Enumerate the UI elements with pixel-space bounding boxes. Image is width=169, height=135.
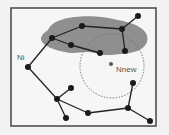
node-n3 (79, 23, 85, 29)
node-n12 (63, 115, 69, 121)
node-n1 (135, 13, 141, 19)
node-n5 (68, 42, 74, 48)
node-n10 (54, 96, 60, 102)
node-n6 (97, 50, 103, 56)
node-n4 (49, 35, 55, 41)
node-n9 (130, 80, 136, 86)
ni-label: Ni (17, 53, 25, 62)
node-n7 (122, 48, 128, 54)
node-n2 (119, 26, 125, 32)
node-ni (25, 64, 31, 70)
nnew-node (109, 62, 113, 66)
nnew-label: Nnew (116, 65, 137, 74)
node-n11 (68, 85, 74, 91)
node-n15 (147, 118, 153, 124)
node-n14 (125, 105, 131, 111)
node-n13 (85, 110, 91, 116)
diagram-canvas: Nnew Ni (0, 0, 169, 135)
